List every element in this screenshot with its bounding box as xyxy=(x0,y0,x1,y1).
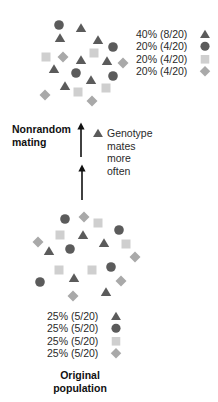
diamond-icon xyxy=(87,96,98,107)
legend-row-circle: 20% (4/20) xyxy=(136,40,209,52)
circle-icon xyxy=(200,42,209,51)
circle-icon xyxy=(108,42,118,52)
square-icon xyxy=(197,53,209,65)
legend-row-triangle: 40% (8/20) xyxy=(136,28,209,40)
process-note: Genotype mates more often xyxy=(92,127,153,177)
diamond-icon xyxy=(200,66,210,76)
triangle-icon xyxy=(49,64,59,73)
diamond-icon xyxy=(130,252,141,263)
circle-icon xyxy=(65,244,75,254)
triangle-icon xyxy=(92,127,104,139)
triangle-icon xyxy=(93,35,103,44)
square-icon xyxy=(122,240,131,249)
square-icon xyxy=(88,266,97,275)
circle-icon xyxy=(108,322,120,334)
triangle-icon xyxy=(108,310,120,322)
diamond-icon xyxy=(79,212,90,223)
legend-text: 20% (4/20) xyxy=(136,65,197,77)
legend-text: 25% (5/20) xyxy=(47,335,108,347)
circle-icon xyxy=(114,225,124,235)
triangle-icon xyxy=(55,33,65,42)
triangle-icon xyxy=(111,312,121,320)
square-icon xyxy=(108,335,120,347)
triangle-icon xyxy=(197,28,209,40)
legend-row-square: 20% (4/20) xyxy=(136,53,209,65)
legend-row-diamond: 20% (4/20) xyxy=(136,65,209,77)
square-icon xyxy=(90,49,99,58)
triangle-icon xyxy=(86,75,96,84)
legend-row-square: 25% (5/20) xyxy=(47,335,120,347)
diamond-icon xyxy=(197,65,209,77)
original-population-label: Original population xyxy=(47,369,113,395)
circle-icon xyxy=(106,262,116,272)
triangle-icon xyxy=(200,30,210,38)
diamond-icon xyxy=(108,347,120,359)
square-icon xyxy=(112,337,121,346)
circle-icon xyxy=(54,20,64,30)
process-label: Nonrandom mating xyxy=(12,123,71,149)
original-population-individuals xyxy=(33,212,141,302)
diamond-icon xyxy=(111,348,121,358)
triangle-icon xyxy=(99,238,109,247)
square-icon xyxy=(94,219,103,228)
legend-row-circle: 25% (5/20) xyxy=(47,322,120,334)
square-icon xyxy=(56,231,65,240)
triangle-icon xyxy=(101,287,111,296)
original-population-legend: 25% (5/20) 25% (5/20) 25% (5/20) 25% (5/… xyxy=(47,310,120,359)
triangle-icon xyxy=(76,23,86,32)
legend-text: 20% (4/20) xyxy=(136,53,197,65)
diamond-icon xyxy=(40,90,51,101)
triangle-icon xyxy=(76,55,86,64)
legend-text: 25% (5/20) xyxy=(47,310,108,322)
circle-icon xyxy=(35,277,45,287)
circle-icon xyxy=(60,214,70,224)
legend-text: 25% (5/20) xyxy=(47,322,108,334)
legend-text: 40% (8/20) xyxy=(136,28,197,40)
note-line: mates xyxy=(107,140,153,153)
square-icon xyxy=(102,84,111,93)
legend-text: 20% (4/20) xyxy=(136,40,197,52)
note-line: often xyxy=(107,165,153,178)
diamond-icon xyxy=(118,58,129,69)
triangle-icon xyxy=(78,230,88,239)
diamond-icon xyxy=(116,276,127,287)
diamond-icon xyxy=(33,237,44,248)
original-label-line1: Original xyxy=(47,369,113,382)
square-icon xyxy=(55,266,64,275)
legend-text: 25% (5/20) xyxy=(47,347,108,359)
diamond-icon xyxy=(58,52,69,63)
triangle-icon xyxy=(93,129,103,137)
circle-icon xyxy=(197,40,209,52)
note-line: Genotype xyxy=(107,127,153,140)
triangle-icon xyxy=(44,246,54,255)
triangle-icon xyxy=(69,273,79,282)
circle-icon xyxy=(108,71,118,81)
legend-row-diamond: 25% (5/20) xyxy=(47,347,120,359)
triangle-icon xyxy=(102,56,112,65)
circle-icon xyxy=(111,324,120,333)
note-line: more xyxy=(107,152,153,165)
square-icon xyxy=(42,53,51,62)
original-label-line2: population xyxy=(47,382,113,395)
triangle-icon xyxy=(60,81,70,90)
after-population-individuals xyxy=(40,20,129,106)
legend-row-triangle: 25% (5/20) xyxy=(47,310,120,322)
process-label-line1: Nonrandom xyxy=(12,123,71,136)
after-population-legend: 40% (8/20) 20% (4/20) 20% (4/20) 20% (4/… xyxy=(136,28,209,77)
process-label-line2: mating xyxy=(12,136,71,149)
circle-icon xyxy=(71,68,81,78)
square-icon xyxy=(201,55,210,64)
square-icon xyxy=(74,88,83,97)
diamond-icon xyxy=(68,291,79,302)
